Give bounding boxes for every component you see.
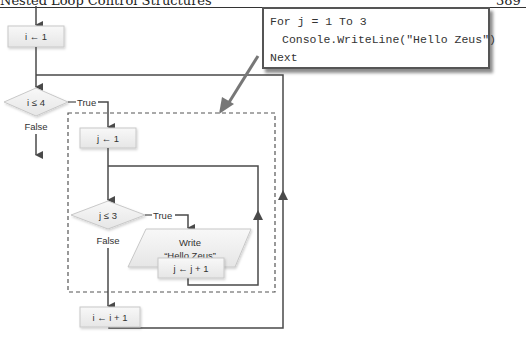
cond-j-false-label: False	[96, 235, 119, 246]
code-callout: For j = 1 To 3 Console.WriteLine("Hello …	[262, 7, 490, 69]
node-cond-j-label: j ≤ 3	[98, 210, 117, 221]
node-write-label-line1: Write	[179, 237, 201, 248]
node-inc-j-label: j ← j + 1	[172, 263, 208, 274]
node-cond-i-label: i ≤ 4	[27, 97, 45, 108]
cond-i-true-label: True	[77, 97, 96, 108]
inner-loop-up-arrow-icon	[253, 210, 263, 220]
code-line-3: Next	[270, 49, 482, 67]
edge-cond-i-true	[98, 102, 108, 127]
callout-pointer-line	[228, 56, 258, 104]
outer-loop-up-arrow-icon	[278, 190, 288, 200]
cond-j-true-label: True	[153, 210, 172, 221]
edge-cond-j-true	[175, 215, 188, 228]
code-line-2: Console.WriteLine("Hello Zeus")	[270, 31, 482, 49]
cond-i-false-label: False	[24, 121, 47, 132]
code-line-1: For j = 1 To 3	[270, 13, 482, 31]
node-init-i-label: i ← 1	[25, 31, 47, 42]
node-inc-i-label: i ← i + 1	[92, 312, 127, 323]
node-init-j-label: j ← 1	[96, 133, 119, 144]
